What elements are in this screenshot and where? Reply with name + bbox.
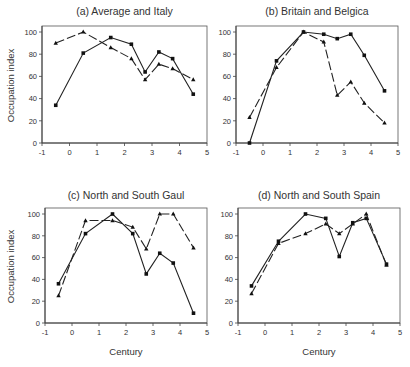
x-tick-label: -1: [42, 328, 49, 337]
triangle-marker-icon: [364, 212, 368, 216]
triangle-marker-icon: [109, 45, 113, 49]
x-tick-label: 5: [205, 148, 209, 157]
x-axis-label: Century: [109, 346, 143, 357]
x-tick-label: 0: [261, 148, 265, 157]
x-tick-label: 5: [398, 328, 402, 337]
triangle-marker-icon: [129, 56, 133, 60]
x-tick-label: -1: [235, 328, 242, 337]
triangle-marker-icon: [349, 80, 353, 84]
x-tick-label: 5: [205, 328, 209, 337]
square-marker-icon: [383, 89, 387, 93]
square-marker-icon: [192, 311, 196, 315]
chart-title: (a) Average and Italy: [76, 5, 173, 17]
y-tick-label: 60: [32, 253, 40, 262]
y-tick-label: 40: [32, 275, 40, 284]
x-axis-label: Century: [302, 346, 336, 357]
plot-frame: [236, 26, 398, 143]
square-marker-icon: [275, 59, 279, 63]
x-tick-label: 3: [344, 328, 348, 337]
chart-title: (d) North and South Spain: [258, 189, 380, 201]
y-tick-label: 80: [223, 50, 231, 59]
y-tick-label: 40: [225, 275, 233, 284]
square-marker-icon: [171, 57, 175, 61]
y-tick-label: 80: [29, 50, 37, 59]
y-tick-label: 20: [223, 117, 231, 126]
square-marker-icon: [337, 255, 341, 259]
x-tick-label: 2: [317, 328, 321, 337]
x-tick-label: 1: [290, 328, 294, 337]
triangle-marker-icon: [110, 218, 114, 222]
triangle-marker-icon: [157, 62, 161, 66]
figure: (a) Average and Italy020406080100-101234…: [0, 0, 410, 367]
series-line: [252, 214, 387, 286]
y-tick-label: 20: [29, 117, 37, 126]
y-tick-label: 80: [225, 232, 233, 241]
square-marker-icon: [143, 70, 147, 74]
y-tick-label: 100: [24, 28, 37, 37]
square-marker-icon: [109, 36, 113, 40]
square-marker-icon: [144, 272, 148, 276]
x-tick-label: 2: [124, 328, 128, 337]
square-marker-icon: [324, 217, 328, 221]
series-north-spain: [250, 212, 389, 288]
square-marker-icon: [335, 37, 339, 41]
square-marker-icon: [322, 32, 326, 36]
square-marker-icon: [54, 103, 58, 107]
x-tick-label: 4: [178, 328, 182, 337]
x-tick-label: 1: [95, 148, 99, 157]
square-marker-icon: [171, 261, 175, 265]
y-tick-label: 80: [32, 232, 40, 241]
x-tick-label: 4: [371, 328, 375, 337]
series-line: [56, 38, 194, 106]
x-tick-label: 1: [97, 328, 101, 337]
panel-britain-belgica: (b) Britain and Belgica020406080100-1012…: [218, 5, 400, 157]
series-line: [250, 32, 385, 123]
chart-title: (c) North and South Gaul: [68, 189, 185, 201]
series-belgica: [248, 30, 387, 145]
square-marker-icon: [111, 212, 115, 216]
series-line: [250, 32, 385, 143]
y-tick-label: 60: [29, 72, 37, 81]
chart-canvas: (a) Average and Italy020406080100-101234…: [0, 0, 410, 367]
square-marker-icon: [248, 141, 252, 145]
y-axis-label: Occupation index: [5, 230, 16, 304]
square-marker-icon: [158, 251, 162, 255]
square-marker-icon: [131, 232, 135, 236]
y-tick-label: 60: [223, 72, 231, 81]
x-tick-label: 3: [151, 328, 155, 337]
y-tick-label: 100: [218, 28, 231, 37]
series-line: [252, 214, 387, 294]
series-south-gaul: [56, 212, 195, 298]
panel-average-italy: (a) Average and Italy020406080100-101234…: [5, 5, 209, 157]
triangle-marker-icon: [83, 218, 87, 222]
x-tick-label: -1: [233, 148, 240, 157]
series-average: [54, 30, 196, 82]
y-tick-label: 0: [229, 319, 233, 328]
x-tick-label: 2: [315, 148, 319, 157]
x-tick-label: 3: [342, 148, 346, 157]
square-marker-icon: [57, 282, 61, 286]
y-tick-label: 40: [223, 94, 231, 103]
chart-title: (b) Britain and Belgica: [265, 5, 368, 17]
x-tick-label: 4: [177, 148, 181, 157]
y-axis-label: Occupation index: [5, 49, 16, 123]
square-marker-icon: [130, 42, 134, 46]
y-tick-label: 40: [29, 94, 37, 103]
x-tick-label: 1: [288, 148, 292, 157]
x-tick-label: 0: [67, 148, 71, 157]
plot-frame: [238, 208, 400, 323]
triangle-marker-icon: [382, 121, 386, 125]
triangle-marker-icon: [191, 77, 195, 81]
y-tick-label: 0: [227, 139, 231, 148]
square-marker-icon: [84, 232, 88, 236]
x-tick-label: 2: [122, 148, 126, 157]
y-tick-label: 0: [33, 139, 37, 148]
square-marker-icon: [349, 32, 353, 36]
square-marker-icon: [362, 54, 366, 58]
x-tick-label: 3: [150, 148, 154, 157]
series-line: [56, 32, 194, 80]
square-marker-icon: [304, 212, 308, 216]
triangle-marker-icon: [81, 30, 85, 34]
panel-north-south-gaul: (c) North and South Gaul020406080100-101…: [5, 189, 209, 357]
triangle-marker-icon: [56, 293, 60, 297]
